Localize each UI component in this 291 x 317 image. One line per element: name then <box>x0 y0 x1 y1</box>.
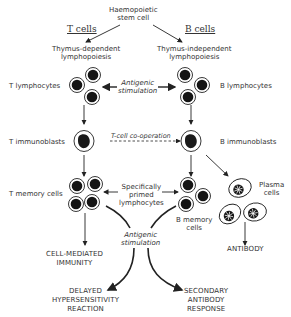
antigenic-bottom-line2: stimulation <box>121 239 160 247</box>
primed-line3: lymphocytes <box>119 199 164 207</box>
antibody-label: ANTIBODY <box>227 245 264 254</box>
plasma-line2: cells <box>259 189 284 197</box>
cmi-line1: CELL-MEDIATED <box>46 250 103 259</box>
plasma-line1: Plasma <box>259 181 284 189</box>
thymus-independent-line2: lymphopoiesis <box>157 53 232 61</box>
stem-arrows <box>86 25 182 42</box>
secondary-line1: SECONDARY <box>184 287 228 296</box>
primed-lymphocytes-label: Specifically primed lymphocytes <box>119 183 164 207</box>
antigenic-stimulation-top: Antigenic stimulation <box>118 79 157 95</box>
b-memory-cells-label: B memory cells <box>176 216 212 232</box>
t-memory-cluster <box>69 177 103 212</box>
stem-cell-line2: stem cell <box>109 14 157 22</box>
thymus-dependent-label: Thymus-dependent lymphopoiesis <box>52 45 120 61</box>
dth-line3: REACTION <box>52 305 119 314</box>
t-lymphocytes-cluster <box>70 68 101 105</box>
diagram-graphics <box>0 0 291 317</box>
b-lymphocytes-cluster <box>178 68 210 105</box>
to-memory-arrows <box>84 155 228 176</box>
antigenic-top-line2: stimulation <box>118 87 157 95</box>
plasma-cells-label: Plasma cells <box>259 181 284 197</box>
secondary-line3: RESPONSE <box>184 305 228 314</box>
antigenic-curves <box>106 206 182 290</box>
thymus-independent-line1: Thymus-independent <box>157 45 232 53</box>
antigenic-top-line1: Antigenic <box>118 79 157 87</box>
b-cells-header: B cells <box>185 24 215 34</box>
b-immunoblast-cell <box>181 131 201 152</box>
t-cells-header: T cells <box>67 24 97 34</box>
cell-mediated-immunity-label: CELL-MEDIATED IMMUNITY <box>46 250 103 268</box>
delayed-hypersensitivity-label: DELAYED HYPERSENSITIVITY REACTION <box>52 287 119 314</box>
cmi-line2: IMMUNITY <box>46 259 103 268</box>
t-lymphocytes-label: T lymphocytes <box>9 82 60 90</box>
thymus-independent-label: Thymus-independent lymphopoiesis <box>157 45 232 61</box>
thymus-dependent-line2: lymphopoiesis <box>52 53 120 61</box>
to-immunoblast-arrows <box>84 105 191 124</box>
antigenic-stimulation-bottom: Antigenic stimulation <box>121 231 160 247</box>
primed-line1: Specifically <box>119 183 164 191</box>
b-memory-line1: B memory <box>176 216 212 224</box>
primed-line2: primed <box>119 191 164 199</box>
stem-cell-label: Haemopoietic stem cell <box>109 6 157 22</box>
b-lymphocytes-label: B lymphocytes <box>220 82 272 90</box>
b-memory-line2: cells <box>176 224 212 232</box>
dth-line2: HYPERSENSITIVITY <box>52 296 119 305</box>
stem-cell-line1: Haemopoietic <box>109 6 157 14</box>
b-memory-cluster <box>179 178 211 212</box>
secondary-antibody-response-label: SECONDARY ANTIBODY RESPONSE <box>184 287 228 314</box>
t-immunoblast-cell <box>74 131 94 152</box>
secondary-line2: ANTIBODY <box>184 296 228 305</box>
dth-line1: DELAYED <box>52 287 119 296</box>
b-immunoblasts-label: B immunoblasts <box>220 138 276 146</box>
t-memory-cells-label: T memory cells <box>9 190 63 198</box>
t-immunoblasts-label: T immunoblasts <box>9 138 65 146</box>
thymus-dependent-line1: Thymus-dependent <box>52 45 120 53</box>
t-cell-cooperation-label: T-cell co-operation <box>111 132 171 140</box>
antigenic-bottom-line1: Antigenic <box>121 231 160 239</box>
